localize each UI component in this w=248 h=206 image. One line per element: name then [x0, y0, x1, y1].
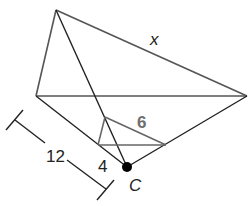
ray-to-top — [56, 10, 127, 167]
small-edge-left — [98, 117, 105, 145]
label-x: x — [149, 30, 159, 49]
diagram-canvas: x 6 12 4 C — [0, 0, 248, 206]
small-edge-six — [105, 117, 166, 145]
label-four: 4 — [98, 157, 107, 176]
small-triangle — [98, 117, 166, 145]
dim-tick-top — [6, 110, 23, 130]
large-edge-top-left — [36, 10, 56, 96]
large-triangle — [36, 10, 247, 96]
center-point-c — [122, 162, 132, 172]
large-edge-x — [56, 10, 247, 96]
label-twelve: 12 — [46, 147, 65, 166]
dilation-diagram: x 6 12 4 C — [0, 0, 248, 206]
label-six: 6 — [137, 113, 146, 132]
dim-tick-bottom — [97, 180, 114, 200]
dilation-rays — [36, 10, 247, 167]
dim-line-upper — [15, 120, 45, 143]
label-center-c: C — [129, 176, 142, 195]
